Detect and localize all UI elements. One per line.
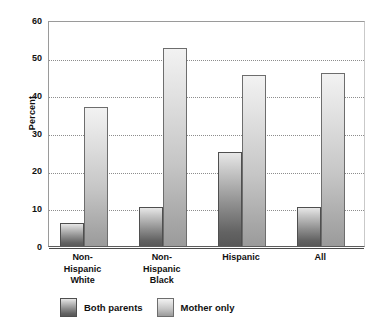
gridline-40 (49, 97, 364, 98)
x-category-label-line: Hispanic (201, 252, 281, 264)
x-category-label-non-hispanic-black: Non-HispanicBlack (122, 252, 202, 287)
y-tick-label-40: 40 (16, 92, 42, 101)
y-tick-label-30: 30 (16, 130, 42, 139)
bar-both-parents-non-hispanic-white[interactable] (60, 223, 84, 246)
x-category-label-non-hispanic-white: Non-HispanicWhite (43, 252, 123, 287)
bar-mother-only-non-hispanic-black[interactable] (163, 48, 187, 246)
y-tick-label-20: 20 (16, 167, 42, 176)
y-tick-label-50: 50 (16, 54, 42, 63)
x-category-label-line: Black (122, 275, 202, 287)
x-category-label-hispanic: Hispanic (201, 252, 281, 264)
x-category-label-line: Hispanic (43, 264, 123, 276)
x-category-label-line: White (43, 275, 123, 287)
x-category-label-all: All (280, 252, 360, 264)
mother-only-swatch (157, 298, 174, 317)
bar-mother-only-non-hispanic-white[interactable] (84, 107, 108, 246)
bar-mother-only-hispanic[interactable] (242, 75, 266, 246)
gridline-50 (49, 60, 364, 61)
plot-area (48, 21, 365, 247)
bar-both-parents-all[interactable] (297, 207, 321, 246)
x-category-label-line: Non- (122, 252, 202, 264)
chart-legend: Both parentsMother only (60, 298, 234, 317)
x-category-label-line: Non- (43, 252, 123, 264)
bar-both-parents-non-hispanic-black[interactable] (139, 207, 163, 246)
legend-label-both-parents: Both parents (84, 302, 143, 313)
x-category-label-line: Hispanic (122, 264, 202, 276)
legend-item-mother-only[interactable]: Mother only (157, 298, 235, 317)
y-tick-label-60: 60 (16, 17, 42, 26)
y-tick-label-0: 0 (16, 243, 42, 252)
bar-chart: Percent 0102030405060 Non-HispanicWhiteN… (0, 0, 385, 333)
y-tick-label-10: 10 (16, 205, 42, 214)
x-category-label-line: All (280, 252, 360, 264)
legend-item-both-parents[interactable]: Both parents (60, 298, 143, 317)
bar-both-parents-hispanic[interactable] (218, 152, 242, 246)
bar-mother-only-all[interactable] (321, 73, 345, 246)
gridline-0 (49, 248, 364, 249)
both-parents-swatch (60, 298, 77, 317)
legend-label-mother-only: Mother only (181, 302, 235, 313)
